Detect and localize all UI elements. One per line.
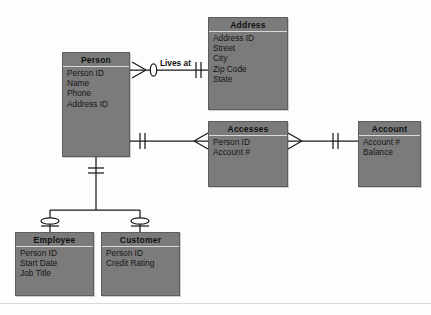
entity-address[interactable]: Address Address ID Street City Zip Code …: [208, 17, 288, 110]
attribute-row: Person ID: [67, 68, 129, 78]
zero-marker-employee: [41, 218, 59, 224]
attribute-row: Phone: [67, 88, 129, 98]
attribute-row: Person ID: [20, 248, 93, 258]
entity-accesses-attributes: Person ID Account #: [209, 136, 287, 159]
entity-accesses-title: Accesses: [209, 122, 287, 136]
attribute-row: Start Date: [20, 258, 93, 268]
entity-account[interactable]: Account Account # Balance: [358, 121, 421, 187]
attribute-row: City: [213, 53, 287, 63]
attribute-row: Balance: [363, 147, 420, 157]
zero-marker-customer: [131, 218, 149, 224]
entity-customer-title: Customer: [102, 233, 179, 247]
entity-account-attributes: Account # Balance: [359, 136, 420, 159]
attribute-row: Address ID: [213, 33, 287, 43]
attribute-row: Job Title: [20, 268, 93, 278]
attribute-row: Credit Rating: [106, 258, 179, 268]
relationship-label-lives-at: Lives at: [160, 58, 191, 68]
zero-marker-lives-at: [150, 64, 156, 76]
attribute-row: Zip Code: [213, 64, 287, 74]
attribute-row: Street: [213, 43, 287, 53]
attribute-row: Account #: [213, 147, 287, 157]
attribute-row: Address ID: [67, 99, 129, 109]
entity-address-attributes: Address ID Street City Zip Code State: [209, 32, 287, 86]
attribute-row: Person ID: [106, 248, 179, 258]
scan-artifact-line: [0, 303, 431, 304]
entity-account-title: Account: [359, 122, 420, 136]
entity-employee[interactable]: Employee Person ID Start Date Job Title: [15, 232, 94, 296]
attribute-row: Name: [67, 78, 129, 88]
er-diagram-canvas: Person Person ID Name Phone Address ID A…: [0, 0, 431, 315]
attribute-row: Person ID: [213, 137, 287, 147]
entity-person-title: Person: [63, 53, 129, 67]
entity-person[interactable]: Person Person ID Name Phone Address ID: [62, 52, 130, 157]
entity-address-title: Address: [209, 18, 287, 32]
entity-person-attributes: Person ID Name Phone Address ID: [63, 67, 129, 111]
entity-customer-attributes: Person ID Credit Rating: [102, 247, 179, 270]
entity-accesses[interactable]: Accesses Person ID Account #: [208, 121, 288, 187]
attribute-row: State: [213, 74, 287, 84]
entity-customer[interactable]: Customer Person ID Credit Rating: [101, 232, 180, 296]
entity-employee-attributes: Person ID Start Date Job Title: [16, 247, 93, 281]
entity-employee-title: Employee: [16, 233, 93, 247]
attribute-row: Account #: [363, 137, 420, 147]
